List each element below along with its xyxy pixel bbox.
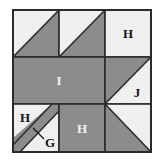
unit-r3c2-plain-square: H: [59, 104, 105, 152]
label-bottom-left-h: H: [20, 110, 30, 125]
unit-r3c1-diagonal-strip-square: H G: [13, 104, 59, 152]
label-right-j: J: [134, 85, 141, 100]
label-bottom-center-h: H: [77, 121, 87, 136]
unit-r1c3-plain-square: H: [105, 10, 151, 57]
label-center-i: I: [56, 73, 61, 88]
unit-r1c2-half-square-triangle: [59, 10, 105, 57]
unit-r2c3-half-square-triangle: J: [105, 57, 151, 104]
quilt-block-svg: H I J H G: [0, 0, 161, 162]
unit-r1c1-half-square-triangle: [13, 10, 59, 57]
label-bottom-left-g: G: [45, 135, 55, 150]
quilt-block-figure: H I J H G: [0, 0, 161, 162]
unit-r2-center-rectangle: I: [13, 57, 105, 104]
label-top-right-h: H: [123, 26, 133, 41]
unit-r3c3-half-square-triangle: [105, 104, 151, 152]
